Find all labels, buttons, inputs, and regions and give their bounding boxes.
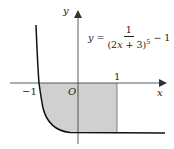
equation-denominator: (2x + 3) xyxy=(107,39,146,50)
graph-canvas xyxy=(0,0,174,149)
tick-label-one: 1 xyxy=(114,72,120,82)
y-axis-label: y xyxy=(63,6,69,16)
x-axis-label: x xyxy=(157,88,163,98)
equation-numerator: 1 xyxy=(124,24,134,37)
equation-equals: = xyxy=(96,32,104,43)
tick-label-neg-one: −1 xyxy=(22,87,37,97)
equation-tail: − 1 xyxy=(153,32,170,43)
equation-label: y = 1 (2x + 3)5 − 1 xyxy=(88,24,170,50)
equation-fraction: 1 (2x + 3)5 xyxy=(107,24,150,50)
origin-label: O xyxy=(68,87,76,97)
equation-lhs: y xyxy=(88,32,93,43)
equation-exponent: 5 xyxy=(146,38,150,46)
